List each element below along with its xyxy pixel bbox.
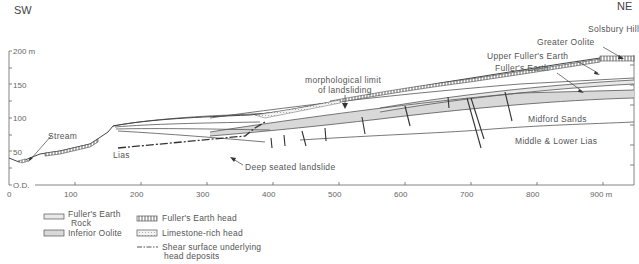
legend-swatch-inferior-oolite <box>44 230 64 236</box>
legend-swatch-fullers-earth-head <box>137 216 157 221</box>
y-tick-150: 150 <box>13 81 27 90</box>
x-tick-700: 700 <box>460 190 474 199</box>
direction-ne-label: NE <box>617 0 632 12</box>
y-tick-100: 100 <box>13 114 27 123</box>
legend-swatch-limestone-rich-head <box>137 230 157 236</box>
middle-lower-lias-label: Middle & Lower Lias <box>515 136 597 146</box>
legend: Fuller's Earth Rock Inferior Oolite Full… <box>44 209 261 261</box>
upper-fullers-earth-label: Upper Fuller's Earth <box>487 51 568 61</box>
y-tick-200: 200 m <box>13 47 36 56</box>
x-tick-200: 200 <box>130 190 144 199</box>
x-tick-0: 0 <box>7 190 12 199</box>
y-tick-50: 50 <box>13 148 22 157</box>
stream-label: Stream <box>48 131 77 141</box>
solsbury-hill-label: Solsbury Hill <box>588 24 639 34</box>
x-tick-400: 400 <box>262 190 276 199</box>
y-tick-od: O.D. <box>13 181 29 190</box>
deep-seated-landslide-label: Deep seated landslide <box>245 162 335 172</box>
greater-oolite-label: Greater Oolite <box>537 37 595 47</box>
y-axis: 200 m 150 100 50 O.D. <box>9 47 36 190</box>
legend-limestone-rich-head: Limestone-rich head <box>162 228 243 238</box>
x-tick-600: 600 <box>394 190 408 199</box>
legend-fullers-earth-head: Fuller's Earth head <box>162 213 237 223</box>
fullers-earth-head-lower <box>45 139 98 156</box>
x-tick-800: 800 <box>526 190 540 199</box>
morph-limit-label-1: morphological limit <box>305 75 381 85</box>
lias-label: Lias <box>113 150 130 160</box>
x-tick-500: 500 <box>328 190 342 199</box>
legend-swatch-fullers-earth-rock <box>44 214 64 219</box>
x-tick-100: 100 <box>64 190 78 199</box>
x-tick-300: 300 <box>196 190 210 199</box>
direction-sw-label: SW <box>14 4 32 16</box>
legend-shear-surface-2: head deposits <box>164 251 220 261</box>
x-axis: 0 100 200 300 400 500 600 700 800 900 m <box>7 182 634 199</box>
geological-cross-section: SW NE 200 m 150 100 50 O.D. 0 100 200 30… <box>0 0 639 264</box>
legend-fullers-earth-rock-2: Rock <box>71 218 92 228</box>
legend-inferior-oolite: Inferior Oolite <box>68 228 122 238</box>
greater-oolite-cap <box>600 56 634 61</box>
deep-seated-shear-surface <box>118 122 265 148</box>
x-tick-900: 900 m <box>590 190 613 199</box>
fullers-earth-label: Fuller's Earth <box>495 63 549 73</box>
morph-limit-label-2: of landsliding <box>318 85 372 95</box>
midford-sands-label: Midford Sands <box>528 114 587 124</box>
